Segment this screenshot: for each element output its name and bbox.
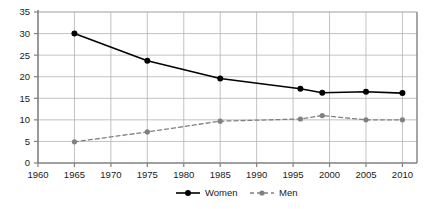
data-point-marker bbox=[145, 129, 150, 134]
data-point-marker bbox=[400, 117, 405, 122]
legend-marker-icon bbox=[259, 190, 264, 195]
x-axis-tick-label: 1995 bbox=[283, 169, 304, 180]
data-point-marker bbox=[217, 75, 223, 81]
legend-marker-icon bbox=[185, 190, 191, 196]
data-point-marker bbox=[71, 31, 77, 37]
data-point-marker bbox=[363, 117, 368, 122]
x-axis-tick-label: 2005 bbox=[355, 169, 376, 180]
chart-container: 05101520253035 1960196519701975198019851… bbox=[0, 0, 437, 209]
y-axis-tick-label: 10 bbox=[19, 114, 30, 125]
x-axis-tick-label: 1960 bbox=[27, 169, 48, 180]
x-axis-tick-label: 2010 bbox=[392, 169, 413, 180]
x-axis-tick-label: 1985 bbox=[210, 169, 231, 180]
x-axis-tick-label: 1975 bbox=[137, 169, 158, 180]
y-axis-tick-label: 25 bbox=[19, 50, 30, 61]
data-point-marker bbox=[72, 139, 77, 144]
x-axis-tick-label: 1980 bbox=[173, 169, 194, 180]
y-axis-tick-label: 5 bbox=[25, 136, 30, 147]
data-point-marker bbox=[144, 58, 150, 64]
data-point-marker bbox=[320, 113, 325, 118]
data-point-marker bbox=[399, 90, 405, 96]
y-axis-tick-label: 0 bbox=[25, 157, 30, 168]
legend-label: Women bbox=[205, 187, 238, 198]
x-axis-tick-label: 1990 bbox=[246, 169, 267, 180]
legend-label: Men bbox=[279, 187, 297, 198]
x-axis-tick-label: 1970 bbox=[100, 169, 121, 180]
data-point-marker bbox=[319, 90, 325, 96]
data-point-marker bbox=[363, 89, 369, 95]
data-point-marker bbox=[298, 116, 303, 121]
y-axis-tick-label: 20 bbox=[19, 71, 30, 82]
y-axis-tick-label: 35 bbox=[19, 6, 30, 17]
data-point-marker bbox=[297, 86, 303, 92]
data-point-marker bbox=[218, 119, 223, 124]
y-axis-tick-label: 15 bbox=[19, 93, 30, 104]
x-axis-tick-label: 1965 bbox=[64, 169, 85, 180]
x-axis-tick-label: 2000 bbox=[319, 169, 340, 180]
y-axis-tick-label: 30 bbox=[19, 28, 30, 39]
line-chart: 05101520253035 1960196519701975198019851… bbox=[0, 0, 437, 209]
